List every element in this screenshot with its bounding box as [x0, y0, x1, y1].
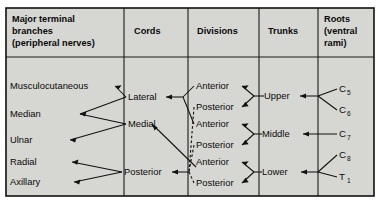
header-roots-line2: (ventral — [324, 26, 357, 36]
header-divisions: Divisions — [197, 26, 238, 36]
root-c8-letter: C — [339, 149, 346, 160]
cord-medial: Medial — [128, 118, 156, 129]
division-anterior-1: Anterior — [196, 80, 229, 91]
trunk-middle: Middle — [262, 128, 290, 139]
trunk-upper: Upper — [264, 90, 290, 101]
root-c5-letter: C — [339, 83, 346, 94]
division-posterior-1: Posterior — [196, 101, 234, 112]
branch-musculocutaneous: Musculocutaneous — [10, 80, 88, 91]
cord-posterior: Posterior — [124, 166, 162, 177]
root-c7-subscript: 7 — [347, 134, 351, 141]
root-t1-subscript: 1 — [347, 177, 351, 184]
branch-ulnar: Ulnar — [10, 134, 32, 145]
division-anterior-3: Anterior — [196, 156, 229, 167]
header-roots-line1: Roots — [324, 14, 350, 24]
brachial-plexus-diagram: Major terminal branches (peripheral nerv… — [0, 0, 380, 200]
header-cords: Cords — [134, 26, 161, 36]
branch-median: Median — [10, 108, 41, 119]
branch-axillary: Axillary — [10, 176, 41, 187]
division-posterior-3: Posterior — [196, 177, 234, 188]
division-posterior-2: Posterior — [196, 139, 234, 150]
chart-background — [6, 8, 374, 196]
branch-radial: Radial — [10, 156, 37, 167]
root-c7-letter: C — [339, 128, 346, 139]
root-c8-subscript: 8 — [347, 155, 351, 162]
root-c5-subscript: 5 — [347, 89, 351, 96]
root-t1-letter: T — [339, 171, 345, 182]
division-anterior-2: Anterior — [196, 118, 229, 129]
header-trunks: Trunks — [268, 26, 298, 36]
header-branches-line3: (peripheral nerves) — [12, 38, 95, 48]
trunk-lower: Lower — [262, 166, 288, 177]
root-c6-letter: C — [339, 104, 346, 115]
header-roots-line3: rami) — [324, 38, 346, 48]
header-branches-line2: branches — [12, 26, 53, 36]
header-branches-line1: Major terminal — [12, 14, 75, 24]
root-c6-subscript: 6 — [347, 110, 351, 117]
plexus-svg-canvas: Major terminal branches (peripheral nerv… — [0, 0, 380, 200]
cord-lateral: Lateral — [128, 91, 157, 102]
